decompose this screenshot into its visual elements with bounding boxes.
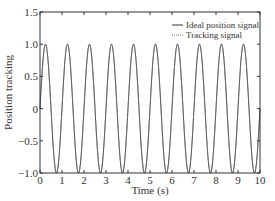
position-tracking-chart: 0123456789101.51.00.50−0.5−1.0Time (s)Po… [0,0,275,201]
legend-label: Ideal position signal [186,20,259,30]
y-tick-label: 0.5 [24,70,38,82]
y-tick-label: −0.5 [18,135,38,147]
x-axis-label: Time (s) [131,184,169,197]
y-tick-label: 1.0 [24,38,38,50]
x-tick-label: 7 [191,174,197,186]
x-tick-label: 1 [59,174,65,186]
x-tick-label: 8 [213,174,219,186]
x-tick-label: 3 [103,174,109,186]
y-axis-label: Position tracking [2,55,14,130]
x-tick-label: 2 [81,174,87,186]
x-tick-label: 0 [37,174,43,186]
y-tick-label: 0 [33,103,39,115]
x-tick-label: 4 [125,174,131,186]
x-tick-label: 6 [169,174,175,186]
legend-label: Tracking signal [186,30,242,40]
y-tick-label: −1.0 [18,167,38,179]
x-tick-label: 9 [235,174,241,186]
y-tick-label: 1.5 [24,6,38,18]
x-tick-label: 10 [255,174,267,186]
